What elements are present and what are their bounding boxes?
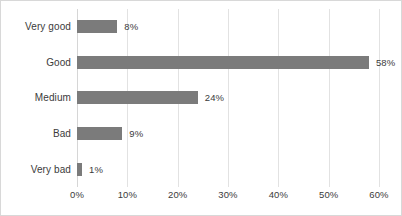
bar bbox=[77, 91, 198, 104]
bar-chart: Very good8%Good58%Medium24%Bad9%Very bad… bbox=[0, 0, 402, 216]
bar bbox=[77, 163, 82, 176]
x-tick-label: 0% bbox=[70, 189, 84, 200]
bar-value-label: 8% bbox=[124, 21, 138, 32]
bar-row: Good58% bbox=[77, 45, 379, 81]
bar bbox=[77, 127, 122, 140]
category-label: Good bbox=[46, 57, 71, 68]
bar bbox=[77, 20, 117, 33]
bar-row: Medium24% bbox=[77, 80, 379, 116]
x-tick-label: 30% bbox=[218, 189, 237, 200]
x-tick-label: 10% bbox=[118, 189, 137, 200]
bar-value-label: 9% bbox=[129, 128, 143, 139]
x-tick-label: 40% bbox=[269, 189, 288, 200]
x-tick-label: 60% bbox=[369, 189, 388, 200]
category-label: Very bad bbox=[31, 164, 71, 175]
bar-row: Very bad1% bbox=[77, 151, 379, 187]
bar-value-label: 58% bbox=[376, 57, 395, 68]
x-axis: 0%10%20%30%40%50%60% bbox=[77, 189, 379, 211]
bar-row: Bad9% bbox=[77, 116, 379, 152]
plot-area: Very good8%Good58%Medium24%Bad9%Very bad… bbox=[77, 9, 379, 187]
category-label: Very good bbox=[25, 21, 71, 32]
gridline-60pct bbox=[379, 9, 380, 187]
bar-value-label: 1% bbox=[89, 164, 103, 175]
category-label: Bad bbox=[53, 128, 71, 139]
bar-value-label: 24% bbox=[205, 92, 224, 103]
x-tick-label: 50% bbox=[319, 189, 338, 200]
bar-row: Very good8% bbox=[77, 9, 379, 45]
x-tick-label: 20% bbox=[168, 189, 187, 200]
category-label: Medium bbox=[35, 92, 71, 103]
bar bbox=[77, 56, 369, 69]
